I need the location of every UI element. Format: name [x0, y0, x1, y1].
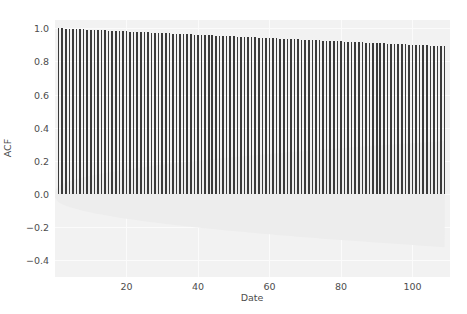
- acf-bar: [440, 46, 442, 194]
- acf-bar: [233, 36, 235, 194]
- acf-bar: [222, 36, 224, 194]
- acf-bar: [362, 42, 364, 194]
- acf-bar: [308, 40, 310, 194]
- acf-bar: [186, 34, 188, 194]
- acf-bar: [315, 40, 317, 194]
- y-tick-label: −0.2: [0, 222, 49, 233]
- acf-chart-figure: −0.4−0.20.00.20.40.60.81.0 20406080100 A…: [0, 0, 467, 314]
- acf-bar: [165, 33, 167, 194]
- acf-bar: [358, 42, 360, 194]
- acf-bar: [269, 38, 271, 194]
- x-tick-label: 60: [263, 281, 275, 292]
- acf-bar: [147, 32, 149, 194]
- acf-bar: [287, 39, 289, 194]
- acf-bar: [97, 30, 99, 194]
- acf-bar: [240, 37, 242, 194]
- x-tick-label: 100: [403, 281, 421, 292]
- acf-bar: [387, 44, 389, 195]
- acf-bar: [179, 34, 181, 194]
- acf-bar: [90, 30, 92, 194]
- acf-bar: [161, 33, 163, 194]
- acf-bar: [279, 39, 281, 195]
- y-tick-label: 0.0: [0, 189, 49, 200]
- acf-bar: [426, 45, 428, 194]
- acf-bar: [326, 41, 328, 194]
- y-tick-label: 1.0: [0, 23, 49, 34]
- acf-bar: [86, 30, 88, 194]
- acf-bar: [129, 32, 131, 194]
- acf-bar: [304, 40, 306, 194]
- acf-bar: [433, 46, 435, 194]
- acf-bar: [101, 30, 103, 194]
- acf-bar: [229, 36, 231, 194]
- acf-bar: [437, 46, 439, 194]
- acf-bar: [322, 41, 324, 195]
- acf-bar: [219, 36, 221, 194]
- acf-bar: [154, 33, 156, 194]
- x-axis-label: Date: [241, 292, 264, 303]
- plot-panel: [55, 20, 450, 277]
- acf-bar: [365, 43, 367, 195]
- acf-bar: [276, 38, 278, 194]
- acf-bar: [251, 37, 253, 194]
- x-tick-label: 20: [120, 281, 132, 292]
- acf-bar: [211, 35, 213, 194]
- acf-bar: [190, 34, 192, 194]
- acf-bar: [379, 43, 381, 194]
- acf-bar: [169, 33, 171, 194]
- plot-area: [55, 20, 450, 277]
- acf-bar: [140, 32, 142, 194]
- acf-bar: [258, 38, 260, 195]
- acf-bar: [183, 34, 185, 194]
- acf-bar: [369, 43, 371, 194]
- acf-bar: [351, 42, 353, 194]
- acf-bar: [158, 33, 160, 194]
- acf-bar: [444, 46, 446, 194]
- y-tick-label: 0.6: [0, 89, 49, 100]
- acf-bar: [201, 35, 203, 194]
- acf-bar: [419, 45, 421, 194]
- acf-bar: [344, 42, 346, 195]
- acf-bar: [415, 45, 417, 194]
- acf-bar: [133, 32, 135, 194]
- acf-bar: [122, 31, 124, 194]
- acf-bar: [329, 41, 331, 194]
- acf-bar: [76, 29, 78, 194]
- acf-bar: [65, 29, 67, 194]
- acf-bar: [265, 38, 267, 194]
- acf-bar: [237, 37, 239, 195]
- acf-bar: [61, 28, 63, 194]
- acf-bar: [115, 31, 117, 194]
- acf-bar: [430, 46, 432, 195]
- acf-bar: [272, 38, 274, 194]
- acf-bar: [408, 45, 410, 195]
- acf-bar: [319, 40, 321, 194]
- acf-bar: [104, 30, 106, 194]
- acf-bar: [69, 29, 71, 194]
- acf-bar: [176, 34, 178, 194]
- acf-bar: [215, 36, 217, 195]
- acf-bar: [333, 41, 335, 194]
- y-tick-label: −0.4: [0, 255, 49, 266]
- acf-bar: [111, 31, 113, 194]
- acf-bar: [151, 33, 153, 195]
- acf-bar: [422, 45, 424, 194]
- acf-bar: [197, 35, 199, 194]
- y-axis-label: ACF: [2, 139, 13, 157]
- acf-bar: [354, 42, 356, 194]
- y-tick-label: 0.4: [0, 122, 49, 133]
- acf-bar: [254, 37, 256, 194]
- acf-bars: [55, 20, 450, 277]
- acf-bar: [194, 35, 196, 195]
- acf-bar: [262, 38, 264, 194]
- acf-bar: [208, 35, 210, 194]
- acf-bar: [72, 29, 74, 194]
- acf-bar: [144, 32, 146, 194]
- acf-bar: [376, 43, 378, 194]
- acf-bar: [390, 44, 392, 194]
- acf-bar: [172, 34, 174, 195]
- x-tick-label: 80: [335, 281, 347, 292]
- acf-bar: [405, 44, 407, 194]
- acf-bar: [136, 32, 138, 194]
- acf-bar: [79, 29, 81, 194]
